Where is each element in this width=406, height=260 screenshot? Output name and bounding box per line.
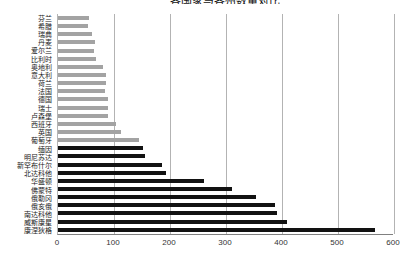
x-tick-label: 100 [106, 238, 119, 247]
bar [58, 81, 106, 85]
bar-row [58, 112, 393, 120]
bar [58, 203, 275, 207]
category-label: 华盛顿 [0, 178, 54, 186]
bar [58, 163, 162, 167]
category-label: 北达科他 [0, 170, 54, 178]
bar [58, 171, 166, 175]
bar [58, 97, 108, 101]
bar-row [58, 226, 393, 234]
bar-row [58, 193, 393, 201]
x-axis-tick-labels: 0100200300400500600 [0, 238, 406, 250]
category-label: 奥地利 [0, 63, 54, 71]
x-tick-label: 200 [162, 238, 175, 247]
category-label: 意大利 [0, 71, 54, 79]
bar [58, 16, 89, 20]
bar-row [58, 144, 393, 152]
category-label: 明尼苏达 [0, 153, 54, 161]
category-label: 缅因 [0, 145, 54, 153]
category-label: 西班牙 [0, 120, 54, 128]
chart-title-clipped: 各国家与各州数量对比 [57, 0, 393, 4]
category-label: 俄勒冈 [0, 194, 54, 202]
bar [58, 57, 96, 61]
category-label: 威斯康星 [0, 219, 54, 227]
bar-row [58, 79, 393, 87]
x-tick-label: 600 [386, 238, 399, 247]
y-axis-labels: 芬兰希腊瑞典丹麦爱尔兰比利时奥地利意大利荷兰法国德国瑞士卢森堡西班牙英国葡萄牙缅… [0, 14, 54, 235]
bar-row [58, 185, 393, 193]
bar [58, 106, 108, 110]
category-label: 葡萄牙 [0, 137, 54, 145]
bar-row [58, 177, 393, 185]
category-label: 芬兰 [0, 14, 54, 22]
bar-row [58, 120, 393, 128]
bar-row [58, 161, 393, 169]
category-label: 法国 [0, 88, 54, 96]
bar-row [58, 38, 393, 46]
category-label: 俄亥俄 [0, 202, 54, 210]
category-label: 丹麦 [0, 39, 54, 47]
bar [58, 24, 88, 28]
bar-rows [58, 14, 393, 234]
bar-row [58, 71, 393, 79]
bar [58, 195, 256, 199]
bar [58, 114, 108, 118]
bar [58, 138, 139, 142]
category-label: 佛蒙特 [0, 186, 54, 194]
bar-row [58, 201, 393, 209]
bar [58, 179, 204, 183]
bar-row [58, 14, 393, 22]
category-label: 康涅狄格 [0, 227, 54, 235]
bar [58, 40, 95, 44]
category-label: 卢森堡 [0, 112, 54, 120]
bar [58, 73, 106, 77]
x-tick-label: 500 [330, 238, 343, 247]
bar-row [58, 55, 393, 63]
plot-area [57, 14, 393, 235]
bar [58, 154, 145, 158]
bar [58, 146, 143, 150]
bar-row [58, 87, 393, 95]
bar-row [58, 63, 393, 71]
bar-row [58, 152, 393, 160]
bar [58, 187, 232, 191]
bar-row [58, 218, 393, 226]
x-tick-label: 0 [55, 238, 59, 247]
bar-row [58, 22, 393, 30]
category-label: 瑞典 [0, 30, 54, 38]
category-label: 新罕布什尔 [0, 161, 54, 169]
bar-row [58, 104, 393, 112]
bar [58, 228, 375, 232]
category-label: 荷兰 [0, 80, 54, 88]
bar [58, 49, 94, 53]
bar-row [58, 30, 393, 38]
category-label: 德国 [0, 96, 54, 104]
x-tick-label: 300 [218, 238, 231, 247]
bar-row [58, 209, 393, 217]
bar-row [58, 128, 393, 136]
bar [58, 211, 277, 215]
gridline-600 [394, 14, 395, 234]
bar-chart: 各国家与各州数量对比 芬兰希腊瑞典丹麦爱尔兰比利时奥地利意大利荷兰法国德国瑞士卢… [0, 0, 406, 260]
bar [58, 220, 287, 224]
category-label: 爱尔兰 [0, 47, 54, 55]
category-label: 比利时 [0, 55, 54, 63]
bar-row [58, 47, 393, 55]
bar-row [58, 169, 393, 177]
bar-row [58, 136, 393, 144]
bar-row [58, 95, 393, 103]
x-tick-label: 400 [274, 238, 287, 247]
category-label: 南达科他 [0, 211, 54, 219]
bar [58, 65, 103, 69]
category-label: 英国 [0, 129, 54, 137]
bar [58, 89, 105, 93]
category-label: 希腊 [0, 22, 54, 30]
bar [58, 32, 92, 36]
category-label: 瑞士 [0, 104, 54, 112]
bar [58, 122, 116, 126]
bar [58, 130, 121, 134]
